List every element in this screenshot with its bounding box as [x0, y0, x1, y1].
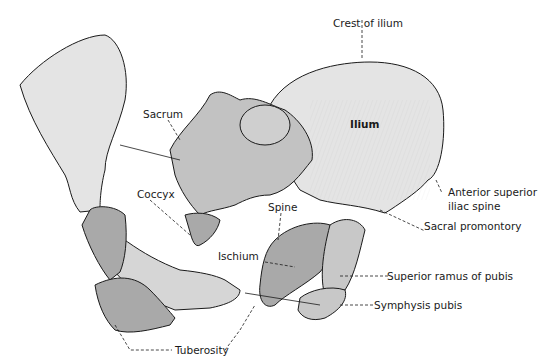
- label-ischium: Ischium: [218, 250, 259, 262]
- label-superior-ramus-of-pubis: Superior ramus of pubis: [387, 270, 513, 282]
- superior-ramus: [322, 220, 365, 295]
- symphysis-pubis: [298, 288, 346, 320]
- coccyx: [185, 213, 220, 245]
- left-ischium: [82, 207, 126, 280]
- label-tuberosity: Tuberosity: [175, 344, 229, 356]
- label-spine: Spine: [268, 201, 297, 213]
- label-sacrum: Sacrum: [143, 108, 183, 120]
- label-anterior-superior-iliac-spine-line1: Anterior superior: [448, 186, 537, 198]
- label-coccyx: Coccyx: [137, 188, 175, 200]
- label-crest-of-ilium: Crest of ilium: [333, 17, 403, 29]
- label-ilium: Ilium: [350, 118, 380, 130]
- sacral-body: [240, 105, 290, 145]
- label-anterior-superior-iliac-spine-line2: iliac spine: [448, 200, 500, 212]
- label-symphysis-pubis: Symphysis pubis: [374, 299, 462, 311]
- label-sacral-promontory: Sacral promontory: [424, 220, 521, 232]
- left-ilium: [20, 35, 126, 212]
